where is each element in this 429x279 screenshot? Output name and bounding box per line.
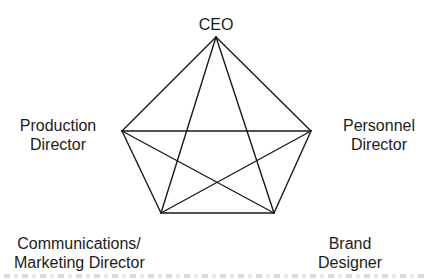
edge-ceo-personnel xyxy=(216,37,311,131)
node-label-production-line2: Director xyxy=(8,135,108,154)
edge-ceo-communications xyxy=(161,37,216,213)
edge-production-communications xyxy=(122,131,161,213)
node-label-production-line1: Production xyxy=(8,116,108,135)
node-label-brand-line1: Brand xyxy=(300,234,400,253)
node-label-ceo-line1: CEO xyxy=(186,15,246,34)
cropped-caption xyxy=(0,272,429,279)
node-label-communications-line1: Communications/ xyxy=(14,234,144,253)
node-label-brand-designer: Brand Designer xyxy=(300,234,400,272)
cropped-caption-text xyxy=(4,274,424,278)
node-label-personnel-director: Personnel Director xyxy=(329,116,429,154)
node-label-personnel-line2: Director xyxy=(329,135,429,154)
node-label-communications-line2: Marketing Director xyxy=(14,253,144,272)
node-label-ceo: CEO xyxy=(186,15,246,34)
node-label-brand-line2: Designer xyxy=(300,253,400,272)
node-label-personnel-line1: Personnel xyxy=(329,116,429,135)
node-label-communications-marketing-director: Communications/ Marketing Director xyxy=(14,234,144,272)
edge-personnel-brand xyxy=(274,131,311,213)
communication-network-diagram: CEO Production Director Personnel Direct… xyxy=(0,0,429,279)
node-label-production-director: Production Director xyxy=(8,116,108,154)
